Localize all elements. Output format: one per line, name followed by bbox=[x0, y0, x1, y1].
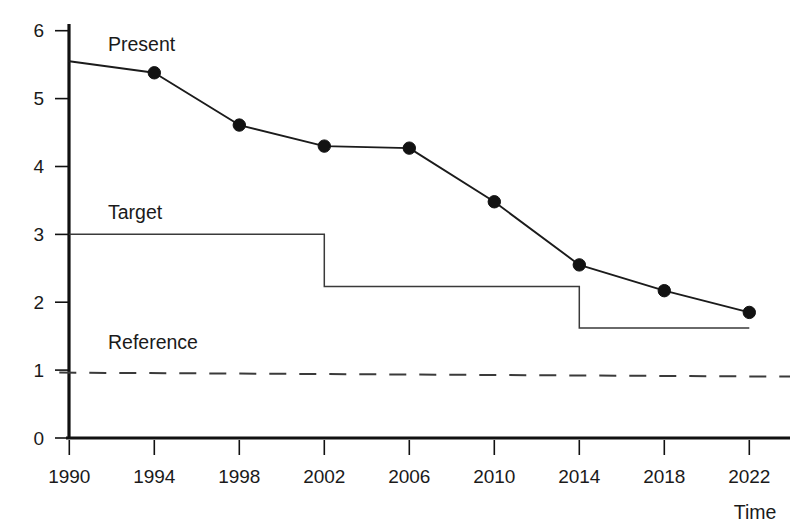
reference-line bbox=[59, 373, 790, 377]
x-tick-label: 2010 bbox=[473, 466, 515, 487]
y-tick-label: 6 bbox=[33, 20, 44, 41]
x-tick-label: 2006 bbox=[388, 466, 430, 487]
data-point-marker bbox=[233, 119, 245, 131]
x-tick-label: 1998 bbox=[218, 466, 260, 487]
series-label-target: Target bbox=[108, 201, 163, 223]
x-tick-label: 2018 bbox=[643, 466, 685, 487]
data-point-marker bbox=[403, 142, 415, 154]
series-label-reference: Reference bbox=[108, 331, 198, 353]
y-tick-label: 4 bbox=[33, 156, 44, 177]
x-tick-label: 2022 bbox=[728, 466, 770, 487]
x-axis-ticks bbox=[69, 440, 749, 455]
y-tick-label: 2 bbox=[33, 292, 44, 313]
x-tick-label: 2014 bbox=[558, 466, 601, 487]
target-step-line bbox=[69, 234, 749, 328]
time-series-chart: 6 5 4 3 2 1 0 1990 1994 1998 2002 2006 bbox=[0, 0, 803, 531]
x-tick-label: 1994 bbox=[133, 466, 176, 487]
x-tick-label: 1990 bbox=[48, 466, 90, 487]
data-point-marker bbox=[148, 67, 160, 79]
y-tick-label: 1 bbox=[33, 360, 44, 381]
series-label-present: Present bbox=[108, 33, 176, 55]
y-tick-label: 5 bbox=[33, 88, 44, 109]
data-point-marker bbox=[743, 306, 755, 318]
data-point-marker bbox=[658, 284, 670, 296]
x-tick-label: 2002 bbox=[303, 466, 345, 487]
data-point-marker bbox=[488, 196, 500, 208]
chart-container: 6 5 4 3 2 1 0 1990 1994 1998 2002 2006 bbox=[0, 0, 803, 531]
y-tick-label: 3 bbox=[33, 224, 44, 245]
x-axis-title: Time bbox=[734, 501, 777, 523]
y-axis-ticks bbox=[55, 31, 69, 438]
present-series-markers bbox=[148, 67, 755, 319]
present-series-line bbox=[69, 61, 749, 312]
y-tick-label: 0 bbox=[33, 428, 44, 449]
data-point-marker bbox=[573, 259, 585, 271]
x-axis-tick-labels: 1990 1994 1998 2002 2006 2010 2014 2018 … bbox=[48, 466, 770, 487]
data-point-marker bbox=[318, 140, 330, 152]
y-axis-tick-labels: 6 5 4 3 2 1 0 bbox=[33, 20, 44, 449]
